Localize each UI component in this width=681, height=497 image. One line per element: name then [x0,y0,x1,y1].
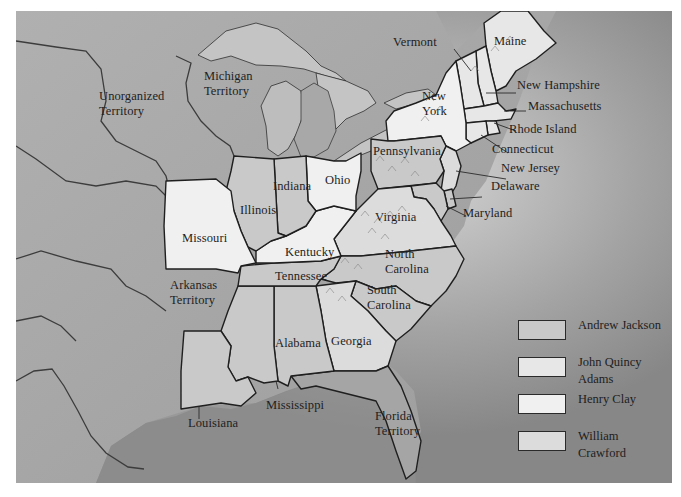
label-unorganized-territory: Unorganized Territory [99,89,164,119]
label-vermont: Vermont [393,35,437,50]
label-maine: Maine [494,34,526,49]
legend-label-adams: John Quincy Adams [578,354,642,388]
label-ohio: Ohio [325,173,350,188]
label-arkansas-territory: Arkansas Territory [170,278,217,308]
map-frame: Unorganized Territory Michigan Territory… [16,11,672,483]
label-virginia: Virginia [375,210,416,225]
legend-swatch-clay [518,394,566,414]
label-louisiana: Louisiana [188,416,238,431]
label-michigan-territory: Michigan Territory [204,69,253,99]
label-maryland: Maryland [463,206,512,221]
label-alabama: Alabama [275,336,321,351]
label-connecticut: Connecticut [492,142,554,157]
label-mississippi: Mississippi [266,398,324,413]
label-indiana: Indiana [273,179,311,194]
label-south-carolina: South Carolina [367,283,411,313]
label-new-hampshire: New Hampshire [517,78,600,93]
legend-swatch-crawford [518,431,566,451]
legend-label-crawford: William Crawford [578,428,626,462]
legend-swatch-adams [518,357,566,377]
label-georgia: Georgia [331,334,372,349]
label-kentucky: Kentucky [285,245,334,260]
label-pennsylvania: Pennsylvania [373,144,441,159]
legend-label-jackson: Andrew Jackson [578,317,661,334]
legend-swatch-jackson [518,320,566,340]
label-missouri: Missouri [182,231,227,246]
label-illinois: Illinois [240,203,276,218]
label-delaware: Delaware [491,179,540,194]
label-north-carolina: North Carolina [385,247,429,277]
label-tennessee: Tennessee [275,269,327,284]
label-new-york: New York [422,89,447,119]
label-new-jersey: New Jersey [501,161,560,176]
label-massachusetts: Massachusetts [528,99,602,114]
legend-label-clay: Henry Clay [578,391,636,408]
label-florida-territory: Florida Territory [375,409,420,439]
label-rhode-island: Rhode Island [509,122,577,137]
